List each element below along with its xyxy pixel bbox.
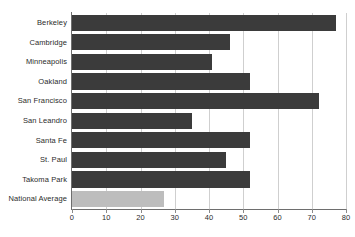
- x-tick-label-50: 50: [228, 213, 258, 222]
- bar-row-berkeley: [72, 13, 346, 33]
- bar-santa-fe: [72, 132, 250, 148]
- bar-row-santa-fe: [72, 131, 346, 151]
- bar-row-takoma-park: [72, 170, 346, 190]
- bar-national-average: [72, 191, 164, 207]
- category-label-cambridge: Cambridge: [29, 33, 67, 53]
- x-tick-label-40: 40: [194, 213, 224, 222]
- x-tick-label-10: 10: [91, 213, 121, 222]
- bar-row-st-paul: [72, 150, 346, 170]
- bar-row-san-leandro: [72, 111, 346, 131]
- x-tick-label-70: 70: [297, 213, 327, 222]
- category-label-oakland: Oakland: [38, 72, 67, 92]
- bar-row-cambridge: [72, 33, 346, 53]
- bar-row-minneapolis: [72, 52, 346, 72]
- bar-row-oakland: [72, 72, 346, 92]
- x-tick-label-20: 20: [126, 213, 156, 222]
- bars-group: [72, 13, 346, 209]
- category-label-takoma-park: Takoma Park: [22, 170, 67, 190]
- gridline-80: [346, 13, 347, 209]
- category-label-minneapolis: Minneapolis: [26, 52, 67, 72]
- category-label-berkeley: Berkeley: [37, 13, 67, 33]
- bar-st-paul: [72, 152, 226, 168]
- bar-takoma-park: [72, 171, 250, 187]
- bar-berkeley: [72, 15, 336, 31]
- category-label-san-leandro: San Leandro: [23, 111, 67, 131]
- category-label-santa-fe: Santa Fe: [36, 131, 67, 151]
- bar-cambridge: [72, 34, 230, 50]
- bar-row-national-average: [72, 189, 346, 209]
- bar-san-francisco: [72, 93, 319, 109]
- chart-title-strip: [150, 0, 349, 8]
- category-label-national-average: National Average: [8, 189, 67, 209]
- x-tick-label-80: 80: [331, 213, 355, 222]
- x-tick-label-0: 0: [57, 213, 87, 222]
- category-label-st-paul: St. Paul: [40, 150, 67, 170]
- x-tick-label-60: 60: [263, 213, 293, 222]
- x-tick-label-30: 30: [160, 213, 190, 222]
- bar-minneapolis: [72, 54, 212, 70]
- bar-row-san-francisco: [72, 91, 346, 111]
- bar-san-leandro: [72, 113, 192, 129]
- bar-oakland: [72, 73, 250, 89]
- category-label-san-francisco: San Francisco: [18, 91, 67, 111]
